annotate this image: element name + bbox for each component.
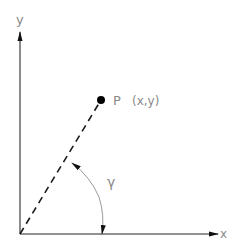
x-axis-label: x <box>220 227 227 241</box>
point-p-label: P <box>113 93 121 108</box>
angle-gamma-label: γ <box>107 174 115 190</box>
point-p-marker <box>97 96 105 104</box>
angle-arc-upper <box>72 163 99 197</box>
angle-arc-lower <box>99 197 103 234</box>
polar-coordinate-diagram: y x P (x,y) γ <box>0 0 239 250</box>
y-axis-label: y <box>16 12 24 27</box>
radius-dashed-line <box>20 100 101 234</box>
point-p-coords-label: (x,y) <box>132 94 159 108</box>
